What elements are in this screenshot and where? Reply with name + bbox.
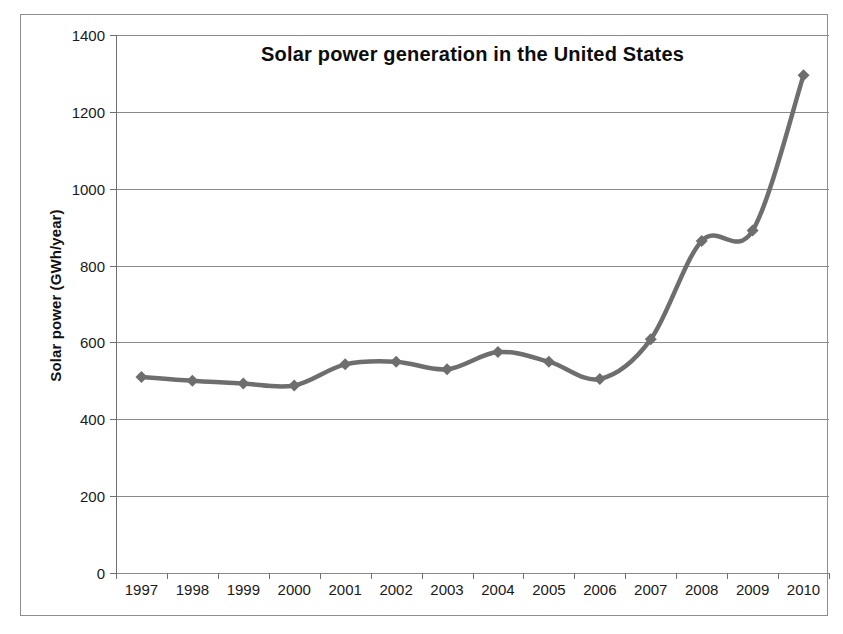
y-axis-title: Solar power (GWh/year) [47, 196, 64, 396]
x-tick-mark-12 [727, 573, 728, 579]
y-tick-label-1400: 1400 [72, 27, 105, 44]
y-tick-label-600: 600 [80, 334, 105, 351]
data-point-2005 [543, 356, 555, 368]
series-layer [116, 35, 829, 573]
data-point-2003 [441, 363, 453, 375]
data-point-2010 [798, 69, 810, 81]
data-point-2001 [339, 358, 351, 370]
x-tick-label-2009: 2009 [736, 581, 769, 598]
y-tick-label-800: 800 [80, 257, 105, 274]
data-point-1999 [237, 378, 249, 390]
data-point-2004 [492, 346, 504, 358]
x-tick-mark-5 [371, 573, 372, 579]
x-tick-label-2008: 2008 [685, 581, 718, 598]
x-tick-mark-10 [625, 573, 626, 579]
data-point-2006 [594, 373, 606, 385]
x-tick-mark-9 [574, 573, 575, 579]
x-tick-mark-2 [218, 573, 219, 579]
series-line-solar-power [141, 75, 803, 386]
x-tick-mark-8 [523, 573, 524, 579]
x-tick-mark-1 [167, 573, 168, 579]
x-tick-label-2004: 2004 [481, 581, 514, 598]
x-tick-mark-14 [829, 573, 830, 579]
y-tick-label-200: 200 [80, 488, 105, 505]
x-tick-label-2003: 2003 [430, 581, 463, 598]
x-tick-label-2002: 2002 [379, 581, 412, 598]
data-point-1997 [135, 371, 147, 383]
x-tick-label-2007: 2007 [634, 581, 667, 598]
x-tick-mark-7 [473, 573, 474, 579]
data-point-2000 [288, 379, 300, 391]
y-tick-label-0: 0 [97, 565, 105, 582]
x-tick-label-1998: 1998 [176, 581, 209, 598]
x-tick-label-2006: 2006 [583, 581, 616, 598]
y-tick-label-1200: 1200 [72, 103, 105, 120]
x-tick-mark-3 [269, 573, 270, 579]
plot-area: Solar power generation in the United Sta… [116, 35, 829, 573]
chart-outer-frame: Solar power (GWh/year) Solar power gener… [20, 14, 828, 616]
x-tick-label-2005: 2005 [532, 581, 565, 598]
x-tick-mark-4 [320, 573, 321, 579]
y-tick-label-400: 400 [80, 411, 105, 428]
x-tick-mark-11 [676, 573, 677, 579]
x-tick-mark-0 [116, 573, 117, 579]
x-tick-label-2010: 2010 [787, 581, 820, 598]
series-markers-group [135, 69, 809, 391]
y-tick-label-1000: 1000 [72, 180, 105, 197]
data-point-2002 [390, 356, 402, 368]
x-tick-label-2000: 2000 [278, 581, 311, 598]
x-tick-mark-6 [422, 573, 423, 579]
x-tick-mark-13 [778, 573, 779, 579]
data-point-1998 [186, 375, 198, 387]
chart-figure: Solar power (GWh/year) Solar power gener… [0, 0, 843, 634]
x-tick-label-2001: 2001 [328, 581, 361, 598]
x-tick-label-1997: 1997 [125, 581, 158, 598]
x-tick-label-1999: 1999 [227, 581, 260, 598]
